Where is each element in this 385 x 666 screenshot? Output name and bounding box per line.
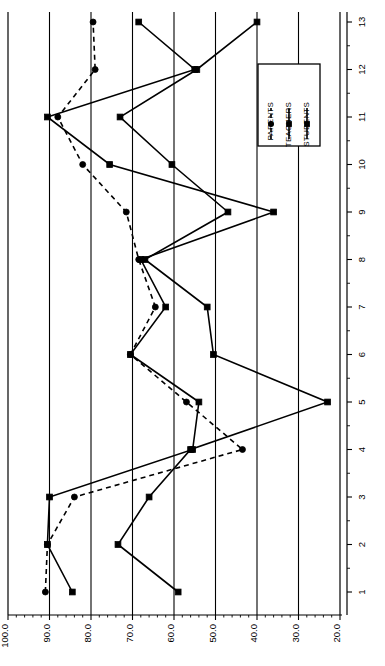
legend-item-teachers[interactable]: TEACHERS [284,102,293,147]
chart-background [0,0,385,666]
category-label-10: 10 [356,159,367,170]
value-tick-label: 20.0 [331,624,342,643]
data-point-teachers-5 [196,399,202,405]
data-point-teachers-4 [190,447,196,453]
chart-root: 12345678910111213 100.090.080.070.060.05… [0,0,385,666]
category-label-6: 6 [356,352,367,357]
data-point-students-11 [117,114,123,120]
category-label-5: 5 [356,399,367,404]
legend-label-parents: PARENTS [266,102,275,141]
data-point-teachers-13 [136,19,142,25]
data-point-parents-2 [44,542,50,548]
data-point-teachers-11 [45,114,51,120]
category-label-8: 8 [356,257,367,262]
data-point-parents-3 [71,494,77,500]
data-point-parents-12 [92,67,98,73]
line-chart: 12345678910111213 100.090.080.070.060.05… [0,0,385,666]
value-tick-label: 70.0 [124,624,135,643]
category-label-12: 12 [356,64,367,75]
data-point-parents-5 [183,399,189,405]
data-point-students-9 [225,209,231,215]
value-tick-label: 100.0 [0,624,10,648]
value-tick-label: 90.0 [41,624,52,643]
data-point-teachers-1 [69,589,75,595]
value-tick-label: 60.0 [165,624,176,643]
value-tick-label: 40.0 [248,624,259,643]
category-label-1: 1 [356,589,367,594]
data-point-parents-11 [55,114,61,120]
data-point-parents-1 [42,589,48,595]
data-point-parents-7 [152,304,158,310]
value-tick-label: 50.0 [207,624,218,643]
data-point-parents-13 [90,19,96,25]
value-tick-label: 30.0 [290,624,301,643]
category-label-13: 13 [356,17,367,28]
data-point-parents-9 [123,209,129,215]
data-point-students-3 [146,494,152,500]
data-point-students-13 [254,19,260,25]
legend-item-students[interactable]: STUDENTS [302,102,311,147]
data-point-students-5 [325,399,331,405]
data-point-teachers-12 [192,67,198,73]
data-point-parents-6 [127,352,133,358]
data-point-students-1 [175,589,181,595]
data-point-teachers-9 [271,209,277,215]
legend-label-teachers: TEACHERS [284,102,293,147]
category-label-7: 7 [356,304,367,309]
category-label-4: 4 [356,447,367,452]
category-label-11: 11 [356,112,367,122]
data-point-students-10 [169,162,175,168]
data-point-teachers-7 [163,304,169,310]
data-point-parents-10 [80,162,86,168]
legend-label-students: STUDENTS [302,102,311,147]
data-point-students-6 [211,352,217,358]
data-point-teachers-3 [47,494,53,500]
data-point-teachers-10 [107,162,113,168]
legend-item-parents[interactable]: PARENTS [266,102,275,141]
data-point-parents-8 [136,257,142,263]
value-tick-label: 80.0 [82,624,93,643]
legend: STUDENTSTEACHERSPARENTS [258,64,320,147]
category-label-3: 3 [356,494,367,499]
category-label-9: 9 [356,209,367,214]
data-point-students-7 [204,304,210,310]
data-point-students-2 [115,542,121,548]
data-point-parents-4 [239,447,245,453]
category-label-2: 2 [356,542,367,547]
